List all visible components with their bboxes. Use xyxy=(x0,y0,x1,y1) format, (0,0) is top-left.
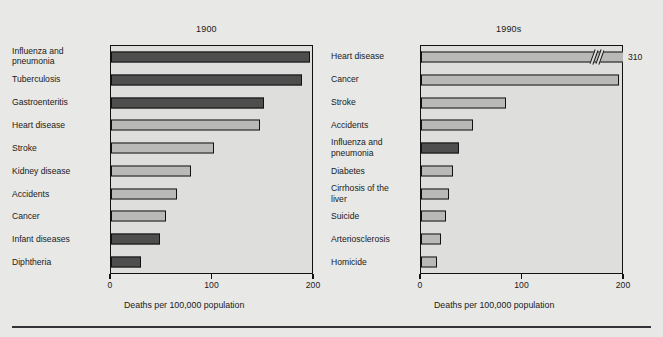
bar xyxy=(111,52,310,63)
bar xyxy=(111,120,260,131)
bar xyxy=(421,165,453,176)
bar-row xyxy=(421,160,622,183)
axis-tick xyxy=(521,274,522,279)
bar xyxy=(111,75,302,86)
bar-rows-1900 xyxy=(111,46,312,273)
bar xyxy=(421,188,449,199)
bar-rows-1990s: 310 xyxy=(421,46,622,273)
category-labels-1990s: Heart diseaseCancerStrokeAccidentsInflue… xyxy=(331,45,417,274)
bar xyxy=(111,165,191,176)
category-label: Tuberculosis xyxy=(12,68,107,91)
bar-row xyxy=(421,91,622,114)
axis-tick xyxy=(419,274,420,279)
bar-row xyxy=(111,228,312,251)
panel-1990s: 1990s Heart diseaseCancerStrokeAccidents… xyxy=(331,0,663,337)
bar-row xyxy=(111,160,312,183)
bottom-divider xyxy=(12,326,651,328)
bar-row xyxy=(111,137,312,160)
bar-row xyxy=(421,182,622,205)
bar-row xyxy=(421,250,622,273)
bar-row xyxy=(421,69,622,92)
bar-row xyxy=(111,182,312,205)
bar-row xyxy=(421,114,622,137)
category-label: Diphtheria xyxy=(12,251,107,274)
bar-row xyxy=(421,228,622,251)
bar xyxy=(421,211,446,222)
x-axis-1900: 0100200 xyxy=(110,274,313,298)
bar xyxy=(111,97,264,108)
x-axis-title-1990s: Deaths per 100,000 population xyxy=(434,300,554,310)
axis-tick xyxy=(211,274,212,279)
bar-value-label: 310 xyxy=(628,52,642,62)
axis-tick-label: 0 xyxy=(108,280,113,290)
axis-tick xyxy=(622,274,623,279)
panel-1900: 1900 Influenza andpneumoniaTuberculosisG… xyxy=(0,0,332,337)
bar-row xyxy=(421,205,622,228)
bar xyxy=(421,233,441,244)
axis-tick-label: 100 xyxy=(204,280,218,290)
chart-title-1900: 1900 xyxy=(196,24,217,34)
category-label: Accidents xyxy=(12,182,107,205)
bar-row xyxy=(111,91,312,114)
bar-row: 310 xyxy=(421,46,622,69)
chart-title-1990s: 1990s xyxy=(496,24,522,34)
axis-tick-label: 100 xyxy=(514,280,528,290)
figure-root: 1900 Influenza andpneumoniaTuberculosisG… xyxy=(0,0,663,337)
category-label: Stroke xyxy=(331,91,417,114)
bar xyxy=(421,120,473,131)
bar-row xyxy=(421,137,622,160)
category-labels-1900: Influenza andpneumoniaTuberculosisGastro… xyxy=(12,45,107,274)
axis-tick xyxy=(312,274,313,279)
bar-row xyxy=(111,114,312,137)
bar-row xyxy=(111,46,312,69)
bar xyxy=(111,211,166,222)
category-label: Arteriosclerosis xyxy=(331,228,417,251)
category-label: Stroke xyxy=(12,137,107,160)
category-label: Suicide xyxy=(331,205,417,228)
bar xyxy=(111,188,177,199)
axis-tick-label: 200 xyxy=(616,280,630,290)
axis-tick-label: 0 xyxy=(418,280,423,290)
category-label: Influenza andpneumonia xyxy=(331,137,417,160)
plot-area-1990s: 310 xyxy=(420,45,623,274)
category-label: Infant diseases xyxy=(12,228,107,251)
category-label: Diabetes xyxy=(331,160,417,183)
category-label: Heart disease xyxy=(331,45,417,68)
bar xyxy=(421,256,437,267)
category-label: Accidents xyxy=(331,114,417,137)
axis-tick xyxy=(109,274,110,279)
bar xyxy=(111,143,214,154)
bar xyxy=(111,256,141,267)
category-label: Influenza andpneumonia xyxy=(12,45,107,68)
bar-row xyxy=(111,69,312,92)
bar xyxy=(421,75,619,86)
category-label: Cancer xyxy=(12,205,107,228)
category-label: Homicide xyxy=(331,251,417,274)
category-label: Cancer xyxy=(331,68,417,91)
category-label: Gastroenteritis xyxy=(12,91,107,114)
bar-row xyxy=(111,250,312,273)
category-label: Cirrhosis of theliver xyxy=(331,182,417,205)
plot-area-1900 xyxy=(110,45,313,274)
category-label: Kidney disease xyxy=(12,160,107,183)
x-axis-1990s: 0100200 xyxy=(420,274,623,298)
axis-tick-label: 200 xyxy=(306,280,320,290)
bar xyxy=(421,97,506,108)
category-label: Heart disease xyxy=(12,114,107,137)
bar xyxy=(111,233,160,244)
x-axis-title-1900: Deaths per 100,000 population xyxy=(124,300,244,310)
bar xyxy=(421,143,459,154)
bar xyxy=(421,52,623,63)
bar-row xyxy=(111,205,312,228)
